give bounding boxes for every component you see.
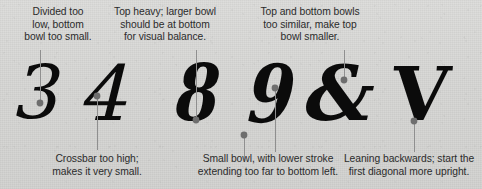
glyph-v: V — [389, 58, 453, 132]
caption-leaning-backwards: Leaning backwards; start the first diago… — [336, 153, 482, 178]
glyph-ampersand: & — [305, 56, 376, 132]
typography-critique-figure: Divided too low, bottom bowl too small. … — [0, 0, 482, 189]
caption-top-heavy: Top heavy; larger bowl should be at bott… — [82, 6, 248, 44]
glyph-nine: 9 — [246, 54, 298, 134]
glyph-three: 3 — [15, 56, 65, 130]
glyph-four: 4 — [82, 56, 134, 132]
glyph-eight: 8 — [175, 55, 222, 133]
caption-crossbar-too-high: Crossbar too high; makes it very small. — [22, 153, 172, 178]
caption-small-bowl: Small bowl, with lower stroke extending … — [176, 153, 360, 178]
caption-bowls-too-similar: Top and bottom bowls too similar, make t… — [228, 6, 392, 44]
